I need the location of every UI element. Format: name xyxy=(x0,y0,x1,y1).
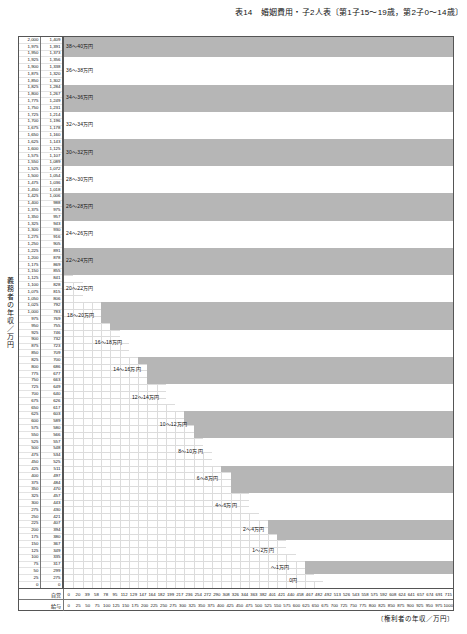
band-cell-empty xyxy=(64,64,453,71)
x-tick-selfemployed: 129 xyxy=(130,589,137,600)
x-tick-selfemployed: 254 xyxy=(195,589,202,600)
band-cell xyxy=(194,425,453,432)
x-tick-salary: 850 xyxy=(388,600,395,611)
band-cell-empty xyxy=(175,404,453,411)
band-cell-empty xyxy=(73,275,453,282)
x-tick-selfemployed: 344 xyxy=(241,589,248,600)
y-cell-salary: 2,000 xyxy=(19,37,40,44)
y-cell-selfemployed: 1,409 xyxy=(41,37,62,44)
band-label: 6〜8万円 xyxy=(197,476,219,481)
band-cell xyxy=(64,255,453,262)
band-cell xyxy=(110,323,453,330)
band-cell-empty xyxy=(249,506,453,513)
band-cell xyxy=(64,91,453,98)
x-tick-selfemployed: 575 xyxy=(371,589,378,600)
y-cell-salary: 825 xyxy=(19,357,40,364)
x-tick-selfemployed: 95 xyxy=(113,589,118,600)
x-tick-salary: 900 xyxy=(407,600,414,611)
x-tick-selfemployed: 421 xyxy=(278,589,285,600)
x-tick-salary: 50 xyxy=(85,600,90,611)
x-tick-selfemployed: 236 xyxy=(185,589,192,600)
band-label: 36〜38万円 xyxy=(66,68,94,73)
x-tick-selfemployed: 543 xyxy=(352,589,359,600)
band-cell xyxy=(64,200,453,207)
x-axis-rows: 自営 0203958789511212914716418219921723625… xyxy=(18,589,454,611)
x-tick-selfemployed: 657 xyxy=(417,589,424,600)
band-cell-empty xyxy=(64,112,453,119)
band-cell-empty xyxy=(249,493,453,500)
band-cell xyxy=(64,153,453,160)
x-tick-selfemployed: 272 xyxy=(204,589,211,600)
x-tick-salary: 200 xyxy=(141,600,148,611)
band-label: 0円 xyxy=(289,578,297,583)
y-column-selfemployed: 1,4091,3911,3731,3561,3381,3201,3021,284… xyxy=(41,37,62,588)
x-tick-selfemployed: 182 xyxy=(158,589,165,600)
band-cell-empty xyxy=(64,221,453,228)
x-tick-salary: 700 xyxy=(331,600,338,611)
band-label: 〜1万円 xyxy=(271,565,290,570)
x-tick-selfemployed: 382 xyxy=(260,589,267,600)
y-cell-salary: 25 xyxy=(19,575,40,582)
band-cell xyxy=(101,316,453,323)
x-tick-salary: 550 xyxy=(274,600,281,611)
band-cell xyxy=(268,527,453,534)
y-column-salary: 2,0001,9751,9501,9251,9001,8751,8501,825… xyxy=(19,37,41,588)
band-cell-empty xyxy=(83,282,453,289)
band-cell-empty xyxy=(166,398,453,405)
band-cell xyxy=(64,159,453,166)
x-tick-salary: 175 xyxy=(132,600,139,611)
x-tick-salary: 500 xyxy=(255,600,262,611)
y-cell-salary: 1,475 xyxy=(19,180,40,187)
y-cell-selfemployed: 700 xyxy=(41,357,62,364)
band-label: 16〜18万円 xyxy=(95,340,123,345)
band-cell-empty xyxy=(259,513,454,520)
x-tick-selfemployed: 674 xyxy=(426,589,433,600)
y-cell-salary: 800 xyxy=(19,364,40,371)
band-cell-empty xyxy=(64,119,453,126)
x-tick-salary: 875 xyxy=(397,600,404,611)
x-tick-salary: 800 xyxy=(369,600,376,611)
y-cell-salary: 1,075 xyxy=(19,289,40,296)
band-label: 10〜12万円 xyxy=(160,422,188,427)
band-cell xyxy=(64,207,453,214)
x-tick-salary: 1000 xyxy=(443,600,453,611)
page-title: 表14 婚姻費用・子2人表〔第1子15〜19歳，第2子0〜14歳〕 xyxy=(0,6,463,17)
x-ticks-salary: 0255075100125150175200225250275300325350… xyxy=(64,600,453,611)
band-cell xyxy=(64,248,453,255)
x-row-salary: 給与 0255075100125150175200225250275300325… xyxy=(19,600,453,611)
x-tick-selfemployed: 39 xyxy=(85,589,90,600)
x-tick-selfemployed: 78 xyxy=(103,589,108,600)
x-tick-salary: 750 xyxy=(350,600,357,611)
band-cell xyxy=(231,486,453,493)
band-cell-empty xyxy=(83,295,453,302)
x-tick-selfemployed: 0 xyxy=(67,589,69,600)
x-tick-selfemployed: 58 xyxy=(94,589,99,600)
band-cell-empty xyxy=(64,180,453,187)
band-cell xyxy=(101,309,453,316)
chart-plot-area: 38〜40万円36〜38万円34〜36万円32〜34万円30〜32万円28〜30… xyxy=(63,36,454,589)
x-tick-salary: 150 xyxy=(122,600,129,611)
band-cell-empty xyxy=(212,459,453,466)
y-cell-salary: 550 xyxy=(19,432,40,439)
band-cell xyxy=(64,51,453,58)
x-tick-salary: 75 xyxy=(95,600,100,611)
band-cell xyxy=(64,193,453,200)
y-cell-salary: 1,225 xyxy=(19,248,40,255)
x-tick-salary: 475 xyxy=(245,600,252,611)
y-cell-selfemployed: 1,125 xyxy=(41,146,62,153)
x-tick-selfemployed: 608 xyxy=(389,589,396,600)
band-cell xyxy=(184,418,453,425)
y-cell-selfemployed: 686 xyxy=(41,364,62,371)
x-tick-selfemployed: 363 xyxy=(250,589,257,600)
band-cell-empty xyxy=(64,71,453,78)
band-label: 26〜28万円 xyxy=(66,204,94,209)
y-cell-selfemployed: 1,320 xyxy=(41,71,62,78)
x-tick-salary: 950 xyxy=(426,600,433,611)
x-tick-selfemployed: 290 xyxy=(213,589,220,600)
x-tick-selfemployed: 217 xyxy=(176,589,183,600)
y-cell-selfemployed: 497 xyxy=(41,473,62,480)
y-cell-selfemployed: 626 xyxy=(41,398,62,405)
y-cell-selfemployed: 275 xyxy=(41,575,62,582)
band-cell-empty xyxy=(64,173,453,180)
band-label: 1〜2万円 xyxy=(252,548,274,553)
